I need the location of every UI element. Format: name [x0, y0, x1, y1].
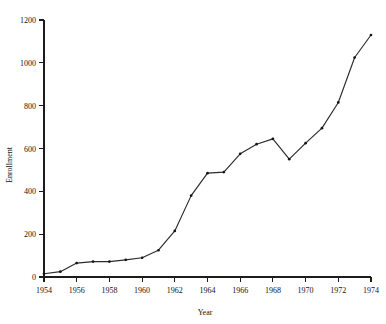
- y-axis-tick-labels: 020040060080010001200: [20, 16, 36, 282]
- x-tick-label-1966: 1966: [232, 286, 248, 295]
- data-point-1958: [108, 260, 111, 263]
- data-point-1969: [288, 158, 291, 161]
- x-tick-label-1958: 1958: [101, 286, 117, 295]
- data-point-1954: [43, 272, 46, 275]
- data-point-1965: [223, 171, 226, 174]
- enrollment-line-chart: 020040060080010001200 195419561958196019…: [0, 0, 386, 324]
- data-point-1963: [190, 194, 193, 197]
- y-tick-label-1000: 1000: [20, 59, 36, 68]
- data-point-1973: [353, 56, 356, 59]
- data-point-1959: [124, 259, 127, 262]
- y-tick-label-200: 200: [24, 230, 36, 239]
- x-tick-label-1970: 1970: [298, 286, 314, 295]
- data-point-1968: [272, 138, 275, 141]
- data-point-1960: [141, 256, 144, 259]
- data-point-1974: [370, 34, 373, 37]
- x-tick-label-1954: 1954: [36, 286, 52, 295]
- x-tick-label-1962: 1962: [167, 286, 183, 295]
- data-point-1967: [255, 143, 258, 146]
- y-tick-label-0: 0: [32, 273, 36, 282]
- y-tick-label-800: 800: [24, 102, 36, 111]
- x-tick-label-1968: 1968: [265, 286, 281, 295]
- data-point-1961: [157, 249, 160, 252]
- y-axis-ticks: [39, 20, 44, 277]
- y-tick-label-400: 400: [24, 187, 36, 196]
- x-tick-label-1960: 1960: [134, 286, 150, 295]
- y-axis-label: Enrollment: [5, 146, 14, 183]
- data-point-1964: [206, 172, 209, 175]
- x-tick-label-1974: 1974: [363, 286, 379, 295]
- y-tick-label-1200: 1200: [20, 16, 36, 25]
- data-point-1962: [173, 230, 176, 233]
- x-axis-ticks: [44, 277, 371, 282]
- data-point-1971: [321, 127, 324, 130]
- enrollment-series-line: [44, 35, 371, 274]
- data-point-1970: [304, 142, 307, 145]
- x-axis-tick-labels: 1954195619581960196219641966196819701972…: [36, 286, 379, 295]
- x-axis-label: Year: [198, 308, 213, 317]
- x-tick-label-1956: 1956: [69, 286, 85, 295]
- data-point-1972: [337, 101, 340, 104]
- y-tick-label-600: 600: [24, 145, 36, 154]
- data-point-1955: [59, 270, 62, 273]
- data-point-1956: [75, 262, 78, 265]
- x-tick-label-1972: 1972: [330, 286, 346, 295]
- data-point-1966: [239, 153, 242, 156]
- axes-group: [44, 20, 371, 277]
- data-point-1957: [92, 260, 95, 263]
- enrollment-data-markers: [43, 34, 373, 276]
- x-tick-label-1964: 1964: [200, 286, 216, 295]
- chart-canvas: 020040060080010001200 195419561958196019…: [0, 0, 386, 324]
